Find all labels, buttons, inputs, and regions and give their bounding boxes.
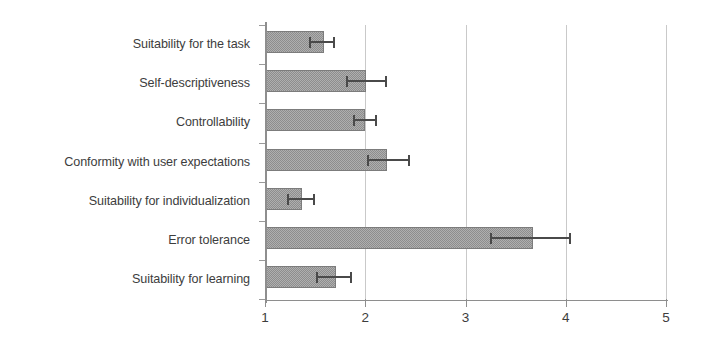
category-label: Self-descriptiveness xyxy=(0,76,250,90)
x-axis-tick-label: 4 xyxy=(551,310,581,325)
error-bar-cap-high xyxy=(333,37,335,48)
error-bar-line xyxy=(491,237,570,239)
bar-controllability xyxy=(265,109,365,131)
x-axis-tick-label: 1 xyxy=(250,310,280,325)
error-bar-cap-high xyxy=(313,194,315,205)
x-axis-tick xyxy=(265,299,266,307)
error-bar-line xyxy=(310,41,334,43)
error-bar-cap-low xyxy=(367,155,369,166)
error-bar-line xyxy=(288,198,314,200)
category-label: Conformity with user expectations xyxy=(0,155,250,169)
plot-area xyxy=(265,25,666,300)
error-bar-cap-high xyxy=(385,76,387,87)
error-bar-cap-low xyxy=(316,272,318,283)
error-bar-cap-low xyxy=(346,76,348,87)
x-axis-labels: 1 2 3 4 5 xyxy=(0,303,702,333)
x-axis-tick xyxy=(466,299,467,307)
error-bar-line xyxy=(368,159,409,161)
gridline-x-3 xyxy=(466,25,467,300)
error-bar-cap-low xyxy=(490,233,492,244)
x-axis-line xyxy=(265,300,668,301)
gridline-x-4 xyxy=(566,25,567,300)
error-bar-line xyxy=(347,80,386,82)
category-label: Controllability xyxy=(0,115,250,129)
error-bar-cap-high xyxy=(408,155,410,166)
category-label: Suitability for the task xyxy=(0,37,250,51)
error-bar-cap-high xyxy=(569,233,571,244)
x-axis-tick-label: 5 xyxy=(651,310,681,325)
error-bar-cap-low xyxy=(287,194,289,205)
error-bar-cap-low xyxy=(309,37,311,48)
category-label: Suitability for learning xyxy=(0,272,250,286)
category-label: Suitability for individualization xyxy=(0,194,250,208)
x-axis-tick xyxy=(365,299,366,307)
error-bar-cap-high xyxy=(350,272,352,283)
error-bar-line xyxy=(317,276,351,278)
x-axis-tick-label: 3 xyxy=(451,310,481,325)
category-label: Error tolerance xyxy=(0,233,250,247)
x-axis-tick xyxy=(566,299,567,307)
gridline-x-5 xyxy=(666,25,667,300)
category-axis-labels: Suitability for the task Self-descriptiv… xyxy=(0,25,258,300)
x-axis-tick-label: 2 xyxy=(350,310,380,325)
bar-chart: Suitability for the task Self-descriptiv… xyxy=(0,0,702,338)
error-bar-cap-low xyxy=(353,115,355,126)
y-axis-line xyxy=(265,22,267,303)
error-bar-line xyxy=(354,119,376,121)
x-axis-tick xyxy=(666,299,667,307)
error-bar-cap-high xyxy=(375,115,377,126)
